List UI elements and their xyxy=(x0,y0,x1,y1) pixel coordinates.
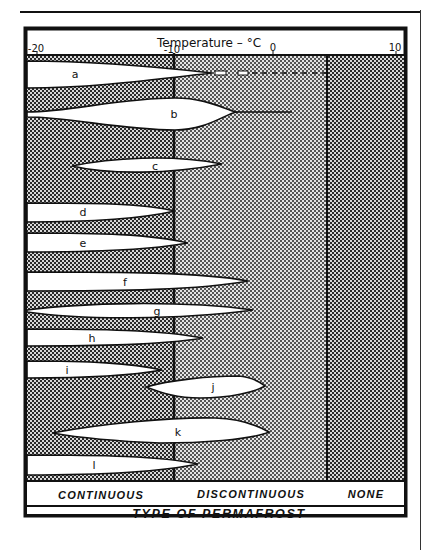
label-b: b xyxy=(171,108,178,121)
label-d: d xyxy=(80,206,87,219)
label-a: a xyxy=(72,68,79,81)
label-g: g xyxy=(154,305,161,318)
tick-label-minus-20: -20 xyxy=(28,43,44,54)
permafrost-temperature-diagram: Temperature – °C -20 -10 0 10 xyxy=(0,0,425,550)
label-c: c xyxy=(152,160,158,173)
label-h: h xyxy=(89,332,96,345)
label-j: j xyxy=(210,381,214,394)
label-l: l xyxy=(92,459,95,472)
zone-label-none: NONE xyxy=(348,488,385,500)
label-i: i xyxy=(65,364,68,377)
zone-label-discontinuous: DISCONTINUOUS xyxy=(197,488,305,500)
tick-label-10: 10 xyxy=(389,42,402,53)
label-k: k xyxy=(175,426,182,439)
footer-title: TYPE OF PERMAFROST xyxy=(132,507,305,521)
label-e: e xyxy=(80,237,87,250)
zone-label-continuous: CONTINUOUS xyxy=(58,489,144,501)
tick-label-minus-10: -10 xyxy=(164,44,180,55)
